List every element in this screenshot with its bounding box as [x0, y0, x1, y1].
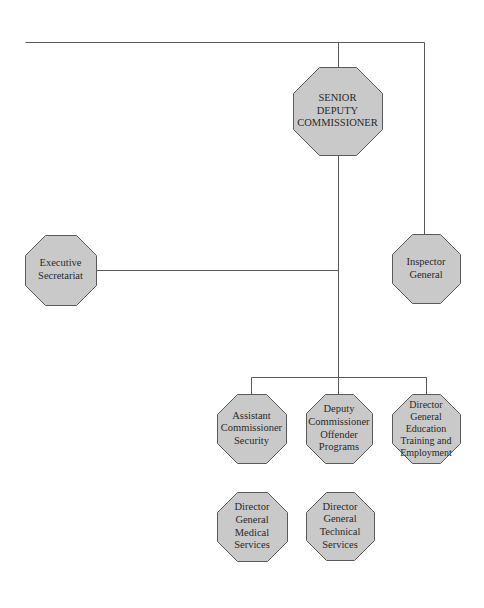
node-label-line: General	[406, 269, 445, 282]
node-label-text: InspectorGeneral	[406, 256, 445, 281]
node-label-line: Education	[400, 423, 452, 435]
node-label-text: DeputyCommissionerOffenderPrograms	[308, 403, 369, 453]
node-label-text: DirectorGeneralEducationTraining andEmpl…	[400, 399, 452, 459]
node-assistant-commissioner-security: AssistantCommissionerSecurity	[217, 394, 286, 463]
node-label-line: Security	[221, 435, 282, 448]
node-label-line: Programs	[308, 441, 369, 454]
node-label-line: Director	[320, 501, 361, 514]
node-label-line: Deputy	[308, 403, 369, 416]
node-label-line: Services	[320, 539, 361, 552]
node-label-line: Secretariat	[38, 270, 83, 283]
node-label-line: SENIOR	[297, 92, 378, 105]
node-inspector-general: InspectorGeneral	[392, 234, 460, 303]
node-label-text: DirectorGeneralMedicalServices	[234, 501, 270, 551]
node-label-line: Medical	[234, 527, 270, 540]
node-label-line: Director	[234, 501, 270, 514]
node-label-line: Executive	[38, 257, 83, 270]
node-label-text: SENIORDEPUTYCOMMISSIONER	[297, 92, 378, 130]
node-director-general-education-training-employment: DirectorGeneralEducationTraining andEmpl…	[392, 394, 460, 463]
node-label-line: Offender	[308, 429, 369, 442]
node-director-general-technical-services: DirectorGeneralTechnicalServices	[306, 492, 374, 560]
node-label-line: Assistant	[221, 410, 282, 423]
node-senior-deputy-commissioner: SENIORDEPUTYCOMMISSIONER	[293, 67, 382, 155]
node-label-line: Inspector	[406, 256, 445, 269]
node-label-line: Director	[400, 399, 452, 411]
node-label-text: ExecutiveSecretariat	[38, 257, 83, 282]
node-label-line: COMMISSIONER	[297, 117, 378, 130]
node-label-line: Services	[234, 539, 270, 552]
node-executive-secretariat: ExecutiveSecretariat	[25, 235, 96, 305]
node-label-text: DirectorGeneralTechnicalServices	[320, 501, 361, 551]
node-label-line: Technical	[320, 526, 361, 539]
node-label-line: General	[234, 514, 270, 527]
node-shapes	[26, 68, 461, 562]
node-label-line: Commissioner	[221, 422, 282, 435]
node-deputy-commissioner-offender-programs: DeputyCommissionerOffenderPrograms	[306, 394, 372, 463]
node-label-line: DEPUTY	[297, 105, 378, 118]
node-label-line: Employment	[400, 447, 452, 459]
node-label-line: Commissioner	[308, 416, 369, 429]
node-director-general-medical-services: DirectorGeneralMedicalServices	[217, 492, 287, 561]
node-label-line: Training and	[400, 435, 452, 447]
node-label-text: AssistantCommissionerSecurity	[221, 410, 282, 448]
node-label-line: General	[320, 513, 361, 526]
node-label-line: General	[400, 411, 452, 423]
